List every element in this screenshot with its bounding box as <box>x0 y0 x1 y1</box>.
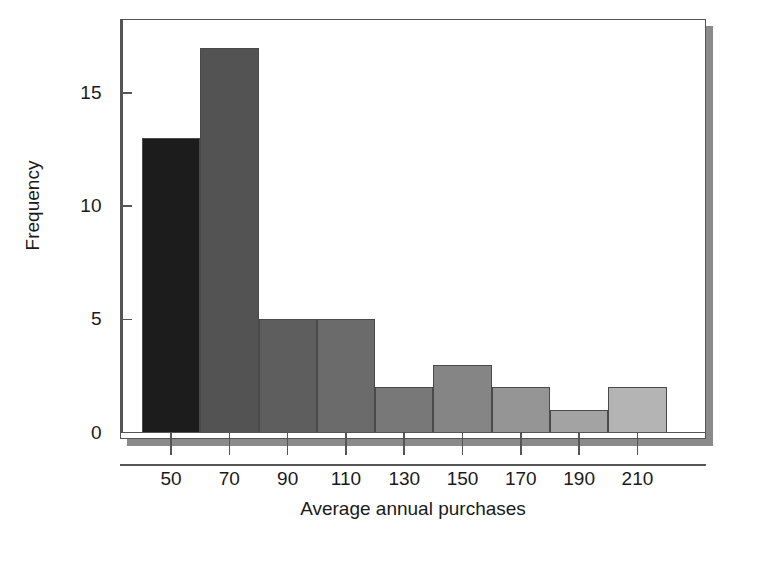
x-axis-tick <box>403 433 405 455</box>
y-axis-title: Frequency <box>23 126 42 286</box>
x-axis-tick <box>229 433 231 455</box>
y-axis-tick <box>121 205 132 207</box>
x-axis-tick <box>637 433 639 455</box>
y-axis-tick-label: 15 <box>56 83 102 102</box>
histogram-bar <box>492 387 550 432</box>
x-tick-band-bottom-rule <box>120 464 706 466</box>
y-axis-tick-label: 10 <box>56 196 102 215</box>
histogram-bar <box>550 410 608 433</box>
x-axis-tick <box>578 433 580 455</box>
x-axis-tick <box>462 433 464 455</box>
y-axis-spine <box>121 19 123 433</box>
histogram-bar <box>375 387 433 432</box>
y-axis-tick-label: 0 <box>56 423 102 442</box>
histogram-figure: Frequency Average annual purchases 05101… <box>0 0 773 561</box>
x-axis-title: Average annual purchases <box>120 498 706 520</box>
x-axis-tick <box>287 433 289 455</box>
histogram-bar <box>608 387 666 432</box>
plot-area <box>122 21 705 433</box>
y-axis-tick <box>121 319 132 321</box>
y-axis-tick <box>121 92 132 94</box>
histogram-bar <box>433 365 491 433</box>
x-axis-tick <box>345 433 347 455</box>
y-axis-tick-label: 5 <box>56 309 102 328</box>
histogram-bar <box>317 319 375 432</box>
histogram-bar <box>142 138 200 432</box>
histogram-bar <box>200 48 258 433</box>
x-axis-tick <box>170 433 172 455</box>
histogram-bar <box>259 319 317 432</box>
x-axis-tick-label: 210 <box>602 468 672 490</box>
x-axis-baseline <box>120 432 706 434</box>
x-axis-tick <box>520 433 522 455</box>
